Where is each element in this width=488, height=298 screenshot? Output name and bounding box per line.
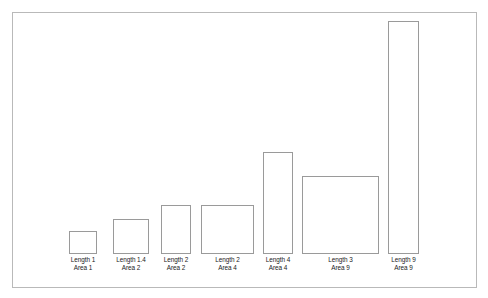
bar-rect [201,205,254,254]
bar-length-label: Length 9 [372,256,436,264]
bar-caption: Length 3Area 9 [309,256,373,272]
bar-rect [263,152,293,254]
bar-area-label: Area 9 [309,264,373,272]
bar-rect [161,205,191,254]
bar-rect [302,176,379,254]
bar-length-label: Length 3 [309,256,373,264]
bar-area-label: Area 9 [372,264,436,272]
bar-caption: Length 4Area 4 [246,256,310,272]
bar-rect [69,231,97,254]
bar-rect [113,219,149,254]
chart-frame: Length 1Area 1Length 1.4Area 2Length 2Ar… [12,12,477,288]
figure-root: Length 1Area 1Length 1.4Area 2Length 2Ar… [0,0,488,298]
bar-rect [388,21,419,254]
bar-area-label: Area 4 [246,264,310,272]
bar-caption: Length 9Area 9 [372,256,436,272]
bar-length-label: Length 4 [246,256,310,264]
plot-area: Length 1Area 1Length 1.4Area 2Length 2Ar… [13,13,478,289]
